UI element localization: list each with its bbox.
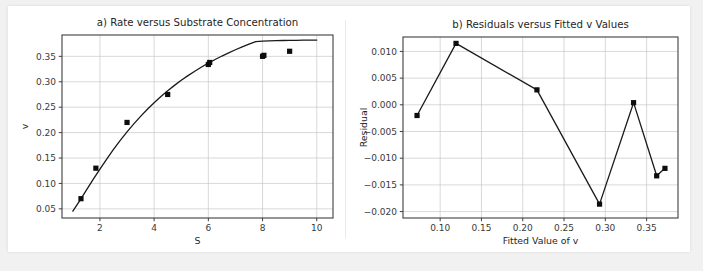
data-point-marker [207, 60, 212, 65]
y-tick-label: 0.30 [36, 77, 56, 87]
data-point-marker [597, 202, 602, 207]
data-point-marker [414, 113, 419, 118]
data-point-marker [453, 41, 458, 46]
data-point-marker [165, 92, 170, 97]
x-tick-label: 2 [97, 223, 103, 233]
y-tick-label: 0.010 [371, 47, 397, 57]
x-tick-label: 0.25 [554, 223, 574, 233]
y-tick-label: −0.020 [364, 207, 398, 217]
y-axis-label: Residual [358, 108, 369, 148]
charts-svg: a) Rate versus Substrate Concentration0.… [8, 6, 690, 252]
chart-title: b) Residuals versus Fitted v Values [452, 19, 629, 30]
x-tick-label: 8 [260, 223, 266, 233]
y-tick-label: 0.10 [36, 179, 56, 189]
x-tick-label: 0.10 [430, 223, 450, 233]
data-point-marker [261, 53, 266, 58]
data-point-marker [124, 120, 129, 125]
data-series-line [73, 40, 317, 211]
y-tick-label: −0.015 [364, 180, 397, 190]
data-point-marker [662, 166, 667, 171]
chart-panel-b: b) Residuals versus Fitted v Values−0.02… [358, 19, 678, 246]
x-tick-label: 0.30 [595, 223, 615, 233]
y-tick-label: 0.25 [36, 102, 56, 112]
data-point-marker [534, 87, 539, 92]
figure-root: a) Rate versus Substrate Concentration0.… [0, 0, 703, 271]
chart-title: a) Rate versus Substrate Concentration [97, 17, 299, 28]
figure-card: a) Rate versus Substrate Concentration0.… [8, 6, 690, 252]
y-tick-label: 0.35 [36, 52, 56, 62]
figure-canvas: a) Rate versus Substrate Concentration0.… [8, 6, 690, 252]
y-tick-label: 0.20 [36, 128, 56, 138]
data-point-marker [287, 49, 292, 54]
data-point-marker [654, 173, 659, 178]
x-axis-label: S [195, 235, 201, 246]
y-tick-label: 0.000 [371, 100, 397, 110]
y-tick-label: 0.15 [36, 153, 56, 163]
data-point-marker [631, 100, 636, 105]
chart-panel-a: a) Rate versus Substrate Concentration0.… [19, 17, 333, 246]
y-axis-label: v [19, 123, 30, 129]
axes-frame [62, 35, 333, 218]
y-tick-label: 0.005 [371, 73, 397, 83]
x-axis-label: Fitted Value of v [503, 235, 579, 246]
data-series-line [417, 43, 665, 204]
x-tick-label: 0.35 [637, 223, 657, 233]
x-tick-label: 0.15 [471, 223, 491, 233]
y-tick-label: −0.010 [364, 153, 398, 163]
x-tick-label: 10 [311, 223, 323, 233]
data-point-marker [93, 166, 98, 171]
x-tick-label: 4 [151, 223, 157, 233]
data-point-marker [78, 196, 83, 201]
x-tick-label: 0.20 [513, 223, 533, 233]
y-tick-label: 0.05 [36, 204, 56, 214]
x-tick-label: 6 [205, 223, 211, 233]
